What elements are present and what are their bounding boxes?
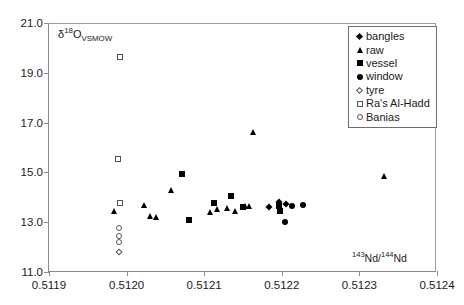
data-point-raw [207,209,213,215]
legend-item-window: window [353,70,430,83]
x-tick-mark [127,271,128,276]
legend-item-tyre: tyre [353,84,430,97]
open-diamond-marker-icon [356,87,363,94]
filled-triangle-marker-icon [246,203,252,209]
legend-item-vessel: vessel [353,57,430,70]
legend-item-raw: raw [353,43,430,56]
x-tick-mark [282,271,283,276]
filled-circle-marker-icon [282,219,288,225]
filled-square-marker-icon [357,60,363,66]
x-tick-label: 0.5123 [342,279,377,291]
filled-triangle-marker-icon [232,208,238,214]
filled-square-marker-icon [186,217,192,223]
open-circle-marker-icon [116,225,122,231]
legend-marker-key [353,74,366,80]
data-point-window [289,203,295,209]
filled-triangle-marker-icon [207,209,213,215]
open-square-marker-icon [117,54,123,60]
y-tick-label: 17.0 [21,117,43,129]
y-tick-mark [44,73,49,74]
filled-square-marker-icon [211,200,217,206]
legend-marker-key [353,34,366,39]
data-point-ra-s-al-hadd [117,54,123,60]
legend-item-banias: Banias [353,110,430,123]
data-point-vessel [211,200,217,206]
data-point-ra-s-al-hadd [117,200,123,206]
y-tick-mark [44,222,49,223]
filled-square-marker-icon [228,193,234,199]
data-point-raw [153,214,159,220]
data-point-banias [116,225,122,231]
x-tick-label: 0.5122 [264,279,299,291]
filled-circle-marker-icon [289,203,295,209]
data-point-bangles [267,204,272,209]
legend-marker-key [353,60,366,66]
legend-marker-key [353,47,366,53]
filled-triangle-marker-icon [168,187,174,193]
legend-label: Banias [366,112,400,123]
open-circle-marker-icon [116,239,122,245]
y-tick-mark [44,23,49,24]
data-point-raw [224,205,230,211]
legend-marker-key [353,88,366,93]
filled-triangle-marker-icon [357,47,363,53]
data-point-window [282,219,288,225]
data-point-raw [141,202,147,208]
data-point-banias [116,239,122,245]
data-point-vessel [186,217,192,223]
open-square-marker-icon [357,101,363,107]
filled-triangle-marker-icon [141,202,147,208]
legend: banglesrawvesselwindowtyreRa's Al-HaddBa… [348,26,437,128]
x-tick-label: 0.5120 [109,279,144,291]
filled-triangle-marker-icon [224,205,230,211]
x-tick-mark [204,271,205,276]
legend-label: raw [366,45,384,56]
data-point-tyre [116,250,121,255]
x-tick-mark [437,271,438,276]
data-point-raw [232,208,238,214]
legend-label: tyre [366,85,384,96]
scatter-chart: δ18OVSMOW 143Nd/144Nd 11.013.015.017.019… [0,0,464,305]
x-tick-mark [359,271,360,276]
filled-square-marker-icon [179,171,185,177]
filled-triangle-marker-icon [250,129,256,135]
data-point-raw [250,129,256,135]
filled-square-marker-icon [277,208,283,214]
data-point-raw [214,206,220,212]
y-tick-label: 21.0 [21,17,43,29]
x-tick-mark [49,271,50,276]
data-point-raw [381,173,387,179]
data-point-banias [116,233,122,239]
data-point-raw [111,208,117,214]
legend-label: bangles [366,31,405,42]
filled-triangle-marker-icon [214,206,220,212]
y-tick-label: 13.0 [21,216,43,228]
y-tick-label: 11.0 [21,266,43,278]
y-tick-label: 19.0 [21,67,43,79]
filled-triangle-marker-icon [147,213,153,219]
legend-label: vessel [366,58,397,69]
filled-diamond-marker-icon [356,33,363,40]
data-point-window [300,202,306,208]
legend-label: Ra's Al-Hadd [366,98,430,109]
data-point-vessel [240,204,246,210]
legend-marker-key [353,101,366,107]
y-tick-mark [44,123,49,124]
y-tick-label: 15.0 [21,166,43,178]
legend-marker-key [353,114,366,120]
legend-item-ra-s-al-hadd: Ra's Al-Hadd [353,97,430,110]
open-circle-marker-icon [357,114,363,120]
open-diamond-marker-icon [115,249,122,256]
open-square-marker-icon [115,156,121,162]
x-tick-label: 0.5119 [32,279,66,291]
open-circle-marker-icon [116,233,122,239]
data-point-vessel [228,193,234,199]
filled-square-marker-icon [240,204,246,210]
filled-circle-marker-icon [300,202,306,208]
data-point-raw [147,213,153,219]
filled-circle-marker-icon [357,74,363,80]
data-point-vessel [277,208,283,214]
data-point-ra-s-al-hadd [115,156,121,162]
data-point-raw [246,203,252,209]
open-square-marker-icon [117,200,123,206]
